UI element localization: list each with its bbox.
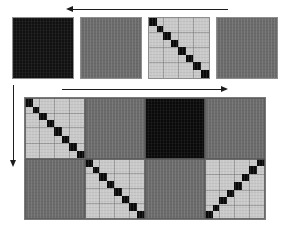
tile-fill: [13, 18, 73, 78]
diagonal-block: [219, 197, 227, 205]
cluster-separator-v: [219, 159, 220, 220]
block-cell-gray: [205, 98, 265, 159]
diagonal-block: [47, 120, 54, 127]
cell-border: [25, 159, 85, 220]
matrix-tile-solid-gray: [80, 17, 142, 79]
large-block-matrix: [24, 97, 266, 220]
diagonal-block: [62, 136, 69, 143]
diagonal-block: [257, 159, 265, 167]
cell-border: [145, 159, 205, 220]
cell-border: [145, 98, 205, 159]
block-cell-diagonal-blocks: [85, 159, 145, 220]
block-cell-black: [145, 98, 205, 159]
cluster-separator-v: [163, 18, 164, 78]
diagonal-block: [85, 159, 93, 168]
diagonal-block: [193, 62, 201, 70]
cluster-separator-h: [205, 174, 265, 175]
diagonal-block: [114, 188, 122, 197]
diagonal-block: [186, 55, 193, 62]
matrix-tile-solid-black: [12, 17, 74, 79]
diagonal-block: [54, 127, 62, 136]
block-cell-gray: [85, 98, 145, 159]
diagonal-block: [99, 173, 107, 181]
cell-texture: [25, 159, 85, 220]
cell-border: [85, 98, 145, 159]
diagonal-block: [178, 47, 186, 55]
cluster-separator-h: [205, 190, 265, 191]
cluster-separator-h: [85, 173, 145, 174]
hierarchical-block-matrix-figure: [0, 0, 287, 238]
block-cell-gray: [25, 159, 85, 220]
diagonal-block: [69, 143, 77, 151]
arrow-head: [66, 6, 73, 12]
diagonal-block: [171, 40, 178, 47]
middle-horizontal-arrow: [62, 85, 228, 93]
cell-texture: [145, 98, 205, 159]
arrow-shaft: [62, 89, 222, 90]
matrix-tile-solid-gray-2: [216, 17, 278, 79]
block-cell-diagonal-blocks: [25, 98, 85, 159]
block-cell-antidiagonal: [205, 159, 265, 220]
diagonal-block: [77, 151, 85, 159]
diagonal-block: [227, 190, 234, 197]
tile-fill: [217, 18, 277, 78]
cell-border: [205, 98, 265, 159]
arrow-head: [10, 160, 16, 167]
tile-fill: [81, 18, 141, 78]
diagonal-block: [122, 196, 129, 203]
diagonal-block: [242, 174, 249, 181]
block-cell-antidiagonal-blocks: [205, 159, 265, 220]
diagonal-block: [213, 205, 219, 211]
diagonal-block: [234, 182, 242, 191]
arrow-head: [221, 86, 228, 92]
block-cell-diagonal: [85, 159, 145, 220]
diagonal-block: [39, 113, 47, 121]
left-vertical-arrow: [9, 85, 17, 167]
cluster-separator-h: [25, 113, 85, 114]
diagonal-block: [137, 211, 145, 219]
diagonal-block: [25, 98, 33, 107]
cluster-separator-v: [99, 159, 100, 220]
diagonal-block: [107, 181, 114, 188]
diagonal-block: [201, 70, 209, 78]
block-cell-gray: [145, 159, 205, 220]
cluster-separator-h: [149, 32, 209, 33]
matrix-tile-block-diagonal-blocks: [149, 18, 209, 78]
block-cell-diagonal: [25, 98, 85, 159]
cell-texture: [205, 98, 265, 159]
diagonal-block: [129, 203, 137, 211]
diagonal-block: [163, 32, 171, 40]
arrow-shaft: [72, 9, 228, 10]
diagonal-block: [205, 211, 213, 220]
cell-texture: [85, 98, 145, 159]
diagonal-block: [249, 166, 257, 174]
cluster-separator-v: [39, 98, 40, 159]
arrow-shaft: [13, 85, 14, 161]
diagonal-block: [149, 18, 157, 26]
top-horizontal-arrow: [66, 5, 228, 13]
cell-texture: [145, 159, 205, 220]
matrix-tile-block-diagonal: [148, 17, 210, 79]
